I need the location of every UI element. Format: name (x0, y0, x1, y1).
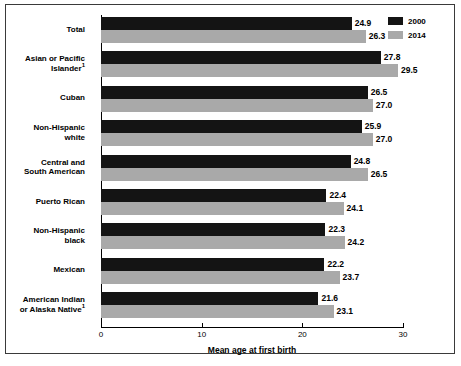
footnote-marker: 1 (82, 303, 85, 309)
category-label-1: Asian or PacificIslander1 (0, 54, 85, 73)
footnote-marker: 1 (82, 62, 85, 68)
value-label-2000-7: 22.2 (327, 258, 344, 271)
x-axis-line (101, 327, 404, 328)
bar-2014-2 (101, 99, 373, 112)
value-label-2014-5: 24.1 (347, 202, 364, 215)
value-label-2014-3: 27.0 (376, 133, 393, 146)
value-label-2000-2: 26.5 (371, 86, 388, 99)
category-label-3: Non-Hispanicwhite (0, 123, 85, 142)
category-label-line1: Mexican (0, 265, 85, 275)
category-label-6: Non-Hispanicblack (0, 226, 85, 245)
bar-2000-6 (101, 223, 325, 236)
category-label-7: Mexican (0, 265, 85, 275)
bar-2014-0 (101, 30, 366, 43)
bar-2000-8 (101, 292, 318, 305)
category-label-0: Total (0, 25, 85, 35)
category-label-line1: Asian or Pacific (0, 54, 85, 64)
x-tick-10 (202, 323, 203, 327)
value-label-2014-4: 26.5 (371, 168, 388, 181)
x-tick-30 (403, 323, 404, 327)
value-label-2000-4: 24.8 (354, 155, 371, 168)
bar-2014-7 (101, 271, 340, 284)
bar-2000-0 (101, 17, 352, 30)
chart-frame: 0102030 24.926.327.829.526.527.025.927.0… (5, 4, 455, 354)
x-tick-label-20: 20 (298, 330, 307, 339)
category-label-line1: American Indian (0, 295, 85, 305)
value-label-2000-1: 27.8 (384, 51, 401, 64)
category-label-line2: Islander1 (0, 64, 85, 74)
category-label-line2: white (0, 133, 85, 143)
value-label-2000-0: 24.9 (355, 17, 372, 30)
bar-2014-4 (101, 168, 368, 181)
legend-label-2014: 2014 (408, 31, 426, 40)
bar-2000-7 (101, 258, 324, 271)
value-label-2014-8: 23.1 (337, 305, 354, 318)
figure-container: 0102030 24.926.327.829.526.527.025.927.0… (0, 0, 461, 366)
legend-label-2000: 2000 (408, 17, 426, 26)
category-label-line1: Non-Hispanic (0, 226, 85, 236)
value-label-2000-8: 21.6 (321, 292, 338, 305)
value-label-2000-6: 22.3 (328, 223, 345, 236)
bar-2000-3 (101, 120, 362, 133)
category-label-line2: South American (0, 167, 85, 177)
bar-2014-6 (101, 236, 345, 249)
x-tick-label-10: 10 (197, 330, 206, 339)
bar-2000-2 (101, 86, 368, 99)
legend-item-2014: 2014 (388, 30, 426, 40)
value-label-2014-7: 23.7 (343, 271, 360, 284)
legend: 2000 2014 (388, 16, 426, 44)
category-label-line1: Central and (0, 158, 85, 168)
category-label-line1: Cuban (0, 93, 85, 103)
legend-swatch-2000 (388, 17, 403, 25)
category-label-2: Cuban (0, 93, 85, 103)
value-label-2000-5: 22.4 (329, 189, 346, 202)
bar-2014-3 (101, 133, 373, 146)
category-label-5: Puerto Rican (0, 197, 85, 207)
bar-2014-1 (101, 64, 398, 77)
x-tick-label-30: 30 (399, 330, 408, 339)
category-label-line2: black (0, 236, 85, 246)
category-label-line1: Puerto Rican (0, 197, 85, 207)
x-tick-20 (302, 323, 303, 327)
x-tick-0 (101, 323, 102, 327)
category-label-4: Central andSouth American (0, 158, 85, 177)
category-label-8: American Indianor Alaska Native1 (0, 295, 85, 314)
x-axis-title: Mean age at first birth (101, 345, 403, 355)
value-label-2014-2: 27.0 (376, 99, 393, 112)
category-label-line2: or Alaska Native1 (0, 305, 85, 315)
legend-swatch-2014 (388, 31, 403, 39)
value-label-2014-0: 26.3 (369, 30, 386, 43)
category-label-line1: Non-Hispanic (0, 123, 85, 133)
legend-item-2000: 2000 (388, 16, 426, 26)
value-label-2014-6: 24.2 (348, 236, 365, 249)
category-label-line1: Total (0, 25, 85, 35)
bar-2000-1 (101, 51, 381, 64)
value-label-2000-3: 25.9 (365, 120, 382, 133)
x-tick-label-0: 0 (99, 330, 103, 339)
bar-2000-4 (101, 155, 351, 168)
bar-2014-5 (101, 202, 344, 215)
bar-2014-8 (101, 305, 334, 318)
value-label-2014-1: 29.5 (401, 64, 418, 77)
bar-2000-5 (101, 189, 326, 202)
